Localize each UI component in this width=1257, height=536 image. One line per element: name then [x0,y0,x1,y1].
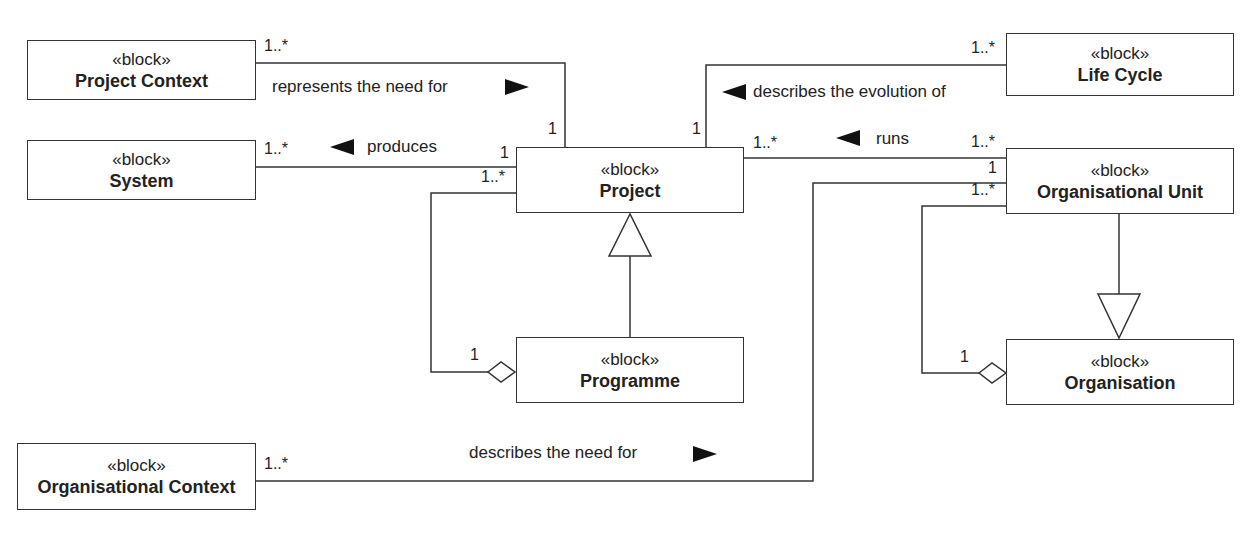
block-stereotype: «block» [1091,160,1150,181]
block-name: Project Context [75,70,208,92]
block-stereotype: «block» [107,455,166,476]
block-name: Organisational Context [37,476,235,498]
block-name: Life Cycle [1077,64,1162,86]
multiplicity: 1 [692,120,701,138]
association-label: produces [367,137,437,157]
aggregation-diamond-icon [488,362,515,382]
block-stereotype: «block» [601,349,660,370]
block-name: Organisational Unit [1037,181,1203,203]
block-project[interactable]: «block» Project [516,147,744,213]
block-stereotype: «block» [601,159,660,180]
association-label: describes the need for [469,443,637,463]
multiplicity: 1..* [753,134,777,152]
block-programme[interactable]: «block» Programme [516,337,744,403]
block-stereotype: «block» [112,49,171,70]
multiplicity: 1..* [971,181,995,199]
direction-left-arrow-icon [722,84,746,100]
block-name: Project [599,180,660,202]
association-represents-line [256,63,565,147]
block-project-context[interactable]: «block» Project Context [27,40,256,100]
direction-right-arrow-icon [693,446,717,462]
multiplicity: 1 [960,348,969,366]
block-life-cycle[interactable]: «block» Life Cycle [1006,33,1234,96]
multiplicity: 1 [988,159,997,177]
direction-right-arrow-icon [505,79,529,95]
generalization-arrowhead-icon [1098,294,1140,338]
multiplicity: 1..* [264,455,288,473]
generalization-arrowhead-icon [609,214,651,256]
block-name: Programme [580,370,680,392]
association-label: represents the need for [272,77,448,97]
multiplicity: 1 [470,346,479,364]
aggregation-diamond-icon [979,363,1006,383]
direction-left-arrow-icon [836,130,860,146]
block-stereotype: «block» [112,149,171,170]
block-name: System [109,170,173,192]
multiplicity: 1..* [264,37,288,55]
block-organisational-context[interactable]: «block» Organisational Context [17,443,256,510]
block-organisation[interactable]: «block» Organisation [1006,339,1234,405]
multiplicity: 1..* [971,39,995,57]
block-name: Organisation [1064,372,1175,394]
block-stereotype: «block» [1091,351,1150,372]
multiplicity: 1 [500,144,509,162]
association-label: runs [876,129,909,149]
multiplicity: 1..* [481,168,505,186]
block-organisational-unit[interactable]: «block» Organisational Unit [1006,148,1234,214]
block-system[interactable]: «block» System [27,140,256,200]
multiplicity: 1 [548,120,557,138]
block-stereotype: «block» [1091,43,1150,64]
multiplicity: 1..* [971,133,995,151]
direction-left-arrow-icon [330,139,354,155]
multiplicity: 1..* [264,140,288,158]
association-label: describes the evolution of [753,82,946,102]
